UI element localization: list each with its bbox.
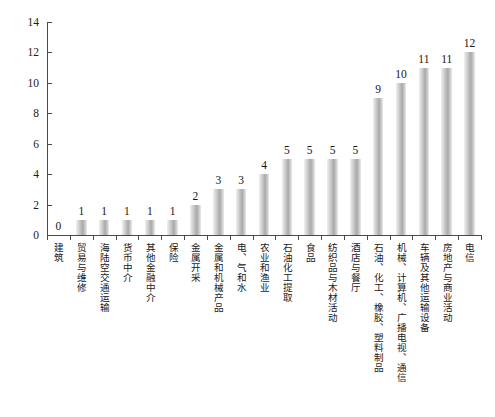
x-axis-tick xyxy=(70,236,71,240)
x-axis-category-label: 建筑 xyxy=(54,243,64,263)
bar-value-label: 1 xyxy=(170,205,176,217)
y-axis-tick xyxy=(47,113,52,114)
x-axis-category-label: 食品 xyxy=(305,243,315,263)
bar-value-label: 5 xyxy=(307,144,313,156)
y-axis-tick-label: 0 xyxy=(0,229,43,241)
bar xyxy=(99,220,110,235)
x-axis-category-label: 金属开采 xyxy=(191,243,201,283)
x-axis-category-label: 石油、化工、橡胶、塑料制品 xyxy=(373,243,383,373)
x-axis-tick xyxy=(435,236,436,240)
bar-value-label: 0 xyxy=(56,220,62,232)
bar xyxy=(282,159,293,235)
x-axis-category-label: 农业和渔业 xyxy=(259,243,269,293)
bar xyxy=(145,220,156,235)
x-axis-category-label: 车辆及其他运输设备 xyxy=(419,243,429,333)
y-axis-tick-label: 14 xyxy=(0,16,43,28)
y-axis-tick-label: 8 xyxy=(0,107,43,119)
x-axis-tick xyxy=(458,236,459,240)
x-axis-tick xyxy=(161,236,162,240)
y-axis-tick-label: 6 xyxy=(0,138,43,150)
y-axis-tick xyxy=(47,52,52,53)
y-axis-tick xyxy=(47,83,52,84)
bar-value-label: 1 xyxy=(78,205,84,217)
bar xyxy=(327,159,338,235)
x-axis-category-label: 房地产与商业活动 xyxy=(442,243,452,323)
x-axis-category-label: 保险 xyxy=(168,243,178,263)
y-axis-tick xyxy=(47,174,52,175)
bar xyxy=(419,68,430,235)
y-axis-tick xyxy=(47,205,52,206)
y-axis-tick-label: 2 xyxy=(0,199,43,211)
y-axis-tick xyxy=(47,22,52,23)
x-axis-category-label: 其他金融中介 xyxy=(145,243,155,303)
x-axis-tick xyxy=(298,236,299,240)
bar-value-label: 12 xyxy=(464,37,476,49)
x-axis-tick xyxy=(390,236,391,240)
x-axis-category-label: 金属和机械产品 xyxy=(213,243,223,313)
x-axis-tick xyxy=(93,236,94,240)
bar-value-label: 11 xyxy=(441,53,452,65)
bar xyxy=(167,220,178,235)
x-axis-tick xyxy=(230,236,231,240)
y-axis-tick-label: 10 xyxy=(0,77,43,89)
y-axis-tick xyxy=(47,144,52,145)
bar xyxy=(441,68,452,235)
x-axis-category-label: 酒店与餐厅 xyxy=(350,243,360,293)
x-axis-category-label: 海陆空交通运输 xyxy=(99,243,109,313)
bar xyxy=(373,98,384,235)
bar xyxy=(190,205,201,235)
bar xyxy=(259,174,270,235)
x-axis-tick xyxy=(344,236,345,240)
x-axis-tick xyxy=(321,236,322,240)
y-axis-tick-label: 12 xyxy=(0,46,43,58)
bar xyxy=(236,189,247,235)
x-axis-tick xyxy=(138,236,139,240)
x-axis-category-label: 纺织品与木材活动 xyxy=(328,243,338,323)
x-axis-tick xyxy=(481,236,482,240)
y-axis-tick-label: 4 xyxy=(0,168,43,180)
x-axis-tick xyxy=(207,236,208,240)
bar xyxy=(396,83,407,235)
x-axis-category-label: 电信 xyxy=(465,243,475,263)
bar-value-label: 10 xyxy=(395,68,407,80)
bar-value-label: 9 xyxy=(375,83,381,95)
x-axis-tick xyxy=(412,236,413,240)
bar xyxy=(76,220,87,235)
bar-chart: 02468101214 01111123345555910111112 建筑贸易… xyxy=(0,0,495,417)
bar-value-label: 5 xyxy=(352,144,358,156)
bar-value-label: 3 xyxy=(238,174,244,186)
x-axis-tick xyxy=(275,236,276,240)
bar-value-label: 5 xyxy=(284,144,290,156)
bar-value-label: 11 xyxy=(418,53,429,65)
bar-value-label: 4 xyxy=(261,159,267,171)
bar-value-label: 1 xyxy=(124,205,130,217)
bar-value-label: 3 xyxy=(215,174,221,186)
x-axis-category-label: 贸易与维修 xyxy=(76,243,86,293)
x-axis-category-label: 石油化工提取 xyxy=(282,243,292,303)
x-axis-tick xyxy=(184,236,185,240)
x-axis-tick xyxy=(367,236,368,240)
x-axis-line xyxy=(47,235,482,236)
x-axis-tick xyxy=(47,236,48,240)
x-axis-tick xyxy=(253,236,254,240)
bar xyxy=(350,159,361,235)
x-axis-category-label: 机械、计算机、广播电视、通信 xyxy=(396,243,406,383)
x-axis-category-label: 货币中介 xyxy=(122,243,132,283)
x-axis-category-label: 电、气和水 xyxy=(236,243,246,293)
bar-value-label: 5 xyxy=(330,144,336,156)
bar-value-label: 2 xyxy=(193,190,199,202)
bar xyxy=(464,52,475,235)
bar xyxy=(213,189,224,235)
bar-value-label: 1 xyxy=(147,205,153,217)
bar xyxy=(304,159,315,235)
bar-value-label: 1 xyxy=(101,205,107,217)
bar xyxy=(122,220,133,235)
x-axis-tick xyxy=(116,236,117,240)
